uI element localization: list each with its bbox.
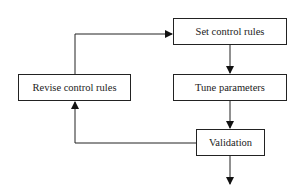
node-validation: Validation <box>196 129 265 156</box>
node-label: Tune parameters <box>195 82 265 93</box>
node-label: Set control rules <box>196 26 265 37</box>
node-set-control-rules: Set control rules <box>173 18 287 45</box>
arrow-revise-to-set <box>75 34 172 74</box>
node-label: Revise control rules <box>33 82 117 93</box>
node-revise-control-rules: Revise control rules <box>18 74 131 101</box>
arrow-validation-to-revise <box>75 102 196 143</box>
node-label: Validation <box>209 137 252 148</box>
node-tune-parameters: Tune parameters <box>173 74 287 101</box>
